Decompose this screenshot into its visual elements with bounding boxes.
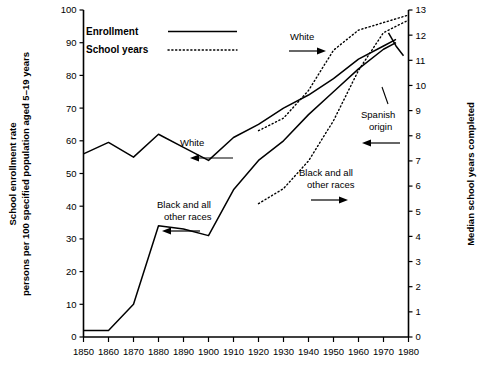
arrow-head-right-icon	[339, 197, 348, 204]
right-tick-label: 11	[416, 55, 426, 66]
annotation-black-enrollment-line1: Black and all	[157, 199, 211, 210]
annotation-black-enrollment-line2: other races	[164, 211, 212, 222]
series-enrollment-white	[84, 39, 397, 160]
x-tick-label: 1980	[398, 346, 419, 357]
x-axis: 1850186018701880189019001910192019301940…	[73, 337, 419, 357]
annotation-black-school-years: Black and all other races	[299, 167, 355, 203]
x-tick-label: 1940	[298, 346, 319, 357]
left-axis-label-line1: School enrollment rate	[7, 123, 18, 226]
annotation-white-school-years-label: White	[290, 31, 314, 42]
x-tick-label: 1870	[123, 346, 144, 357]
right-tick-label: 9	[416, 105, 421, 116]
arrow-head-left-icon	[162, 228, 171, 235]
left-tick-label: 0	[71, 331, 76, 342]
right-tick-label: 6	[416, 180, 421, 191]
series-enrollment-spanish	[389, 33, 404, 56]
x-tick-label: 1930	[273, 346, 294, 357]
right-tick-label: 8	[416, 130, 421, 141]
left-tick-label: 100	[61, 4, 77, 15]
right-tick-label: 4	[416, 231, 421, 242]
right-tick-label: 7	[416, 155, 421, 166]
x-tick-label: 1860	[98, 346, 119, 357]
right-axis: 012345678910111213	[409, 4, 427, 342]
chart-figure: 0102030405060708090100 01234567891011121…	[0, 0, 485, 371]
annotation-spanish-origin: Spanish origin	[361, 87, 400, 146]
right-tick-label: 3	[416, 256, 421, 267]
x-tick-label: 1900	[198, 346, 219, 357]
right-tick-label: 5	[416, 206, 421, 217]
x-tick-label: 1880	[148, 346, 169, 357]
left-tick-label: 20	[66, 266, 77, 277]
chart-svg: 0102030405060708090100 01234567891011121…	[0, 0, 485, 371]
annotation-spanish-origin-line2: origin	[369, 121, 392, 132]
x-tick-label: 1950	[323, 346, 344, 357]
leader-line	[382, 87, 388, 104]
legend-school-years-label: School years	[86, 44, 149, 55]
left-tick-label: 90	[66, 37, 77, 48]
left-tick-label: 80	[66, 70, 77, 81]
arrow-head-left-icon	[362, 140, 371, 147]
left-tick-label: 60	[66, 135, 77, 146]
right-tick-label: 13	[416, 4, 427, 15]
x-tick-label: 1960	[348, 346, 369, 357]
annotation-black-school-years-line2: other races	[307, 179, 355, 190]
left-axis-label-line2: persons per 100 specified population age…	[20, 52, 31, 296]
x-tick-label: 1850	[73, 346, 94, 357]
right-tick-label: 10	[416, 80, 427, 91]
annotation-black-school-years-line1: Black and all	[299, 167, 353, 178]
left-tick-label: 10	[66, 299, 77, 310]
right-tick-label: 2	[416, 281, 421, 292]
annotation-spanish-origin-line1: Spanish	[361, 109, 395, 120]
left-tick-label: 70	[66, 103, 77, 114]
x-tick-label: 1970	[373, 346, 394, 357]
x-tick-label: 1920	[248, 346, 269, 357]
legend-enrollment-label: Enrollment	[86, 26, 139, 37]
x-tick-label: 1910	[223, 346, 244, 357]
arrow-head-right-icon	[317, 48, 326, 55]
legend: Enrollment School years	[86, 26, 237, 55]
right-tick-label: 0	[416, 331, 421, 342]
left-tick-label: 30	[66, 233, 77, 244]
right-tick-label: 12	[416, 30, 427, 41]
annotation-white-school-years: White	[289, 31, 326, 54]
right-tick-label: 1	[416, 306, 421, 317]
left-axis: 0102030405060708090100	[61, 4, 84, 342]
left-tick-label: 50	[66, 168, 77, 179]
annotation-white-enrollment-label: White	[180, 137, 204, 148]
right-axis-label: Median school years completed	[465, 102, 476, 246]
left-tick-label: 40	[66, 201, 77, 212]
arrow-head-left-icon	[190, 155, 199, 162]
x-tick-label: 1890	[173, 346, 194, 357]
